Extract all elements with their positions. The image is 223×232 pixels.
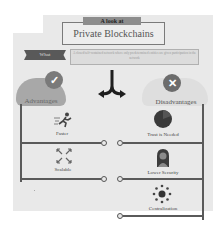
right-divider-2 <box>123 178 204 180</box>
hub-icon <box>152 184 172 204</box>
left-divider-1 <box>20 142 101 144</box>
left-node-1 <box>101 140 107 146</box>
right-vertical-line <box>202 104 204 220</box>
right-divider-3 <box>123 215 204 217</box>
pie-chart-icon <box>153 109 173 129</box>
title-tab: A look at <box>83 17 141 25</box>
advantage-label: Scalable <box>28 167 98 172</box>
disadvantage-label: Centralization <box>128 206 198 211</box>
page-title: Private Blockchains <box>62 28 165 39</box>
expand-arrows-icon <box>55 147 73 165</box>
advantages-heading: Advantages <box>15 97 67 105</box>
check-icon: ✓ <box>45 71 63 89</box>
disadvantage-label: Trust is Needed <box>128 132 198 137</box>
advantage-label: Faster <box>27 131 97 136</box>
right-divider-1 <box>123 142 204 144</box>
x-icon: ✕ <box>163 74 181 92</box>
what-description: A closed/self-contained network where on… <box>70 49 199 65</box>
decorative-dot <box>34 190 35 191</box>
disadvantage-label: Lower Security <box>128 170 198 175</box>
split-arrow-icon <box>95 68 129 102</box>
left-node-2 <box>101 176 107 182</box>
running-person-icon <box>53 112 73 128</box>
left-divider-2 <box>20 178 101 180</box>
hacker-icon <box>154 148 172 168</box>
what-tag: What <box>24 50 66 60</box>
